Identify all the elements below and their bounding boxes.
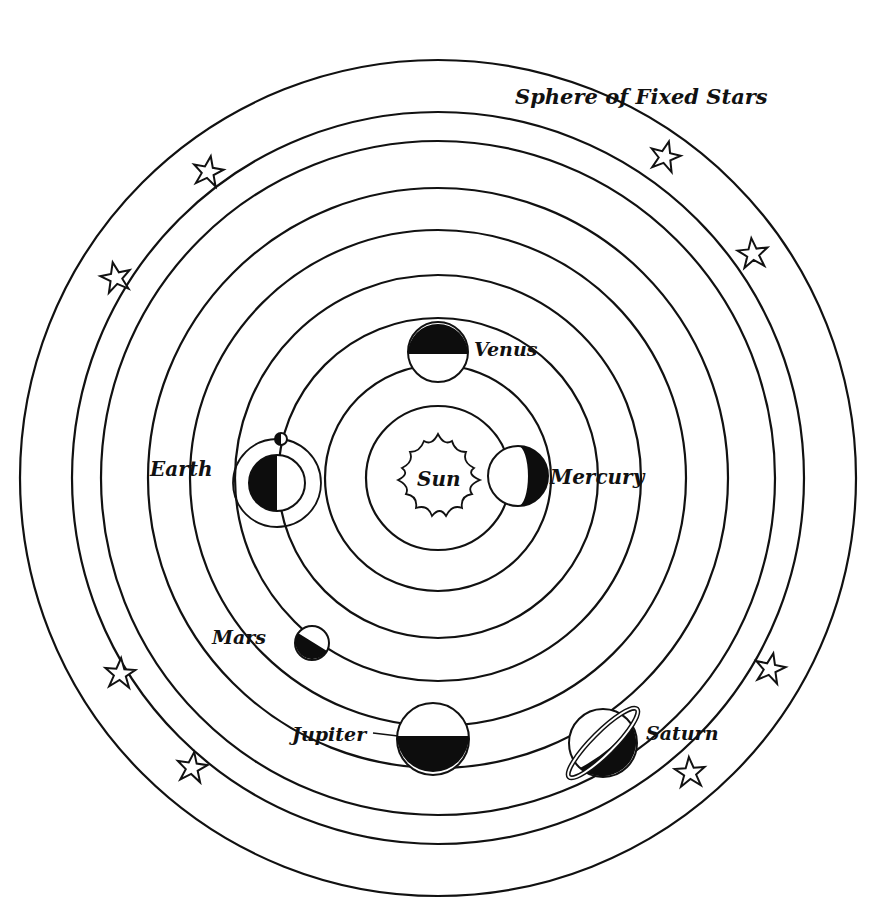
star-icon xyxy=(674,756,706,787)
star-icon xyxy=(175,750,209,783)
venus-shadow xyxy=(408,324,468,354)
star-icon xyxy=(736,237,769,269)
sun: Sun xyxy=(398,434,480,516)
venus: Venus xyxy=(408,322,538,382)
mercury-label: Mercury xyxy=(549,465,646,489)
star-icon xyxy=(104,657,136,688)
saturn-label: Saturn xyxy=(646,722,718,744)
jupiter-label: Jupiter xyxy=(289,723,368,745)
sphere-of-fixed-stars-title: Sphere of Fixed Stars xyxy=(515,84,768,109)
mars-label: Mars xyxy=(211,626,266,648)
star-icon xyxy=(647,138,683,173)
mars: Mars xyxy=(211,626,329,660)
earth-label: Earth xyxy=(149,457,213,481)
earth-shadow xyxy=(249,455,277,511)
star-icon xyxy=(191,154,226,188)
mercury: Mercury xyxy=(488,446,646,506)
jupiter: Jupiter xyxy=(289,703,469,775)
sun-label: Sun xyxy=(417,467,461,491)
star-icon xyxy=(98,259,133,294)
diagram-canvas: Sun Mercury Venus Earth Mars xyxy=(0,0,880,919)
venus-label: Venus xyxy=(474,338,538,360)
jupiter-leader-line xyxy=(373,733,398,736)
sphere-title-group: Sphere of Fixed Stars xyxy=(512,82,780,112)
heliocentric-diagram: Sun Mercury Venus Earth Mars xyxy=(0,0,880,919)
